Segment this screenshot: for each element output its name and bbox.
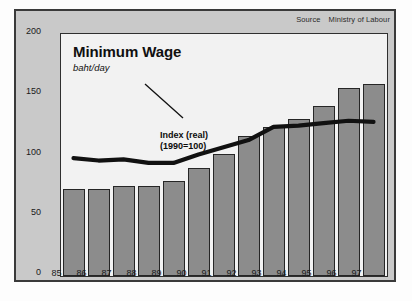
x-tick-92: 92 <box>226 268 236 278</box>
chart-figure: Source Ministry of Labour Minimum Wage b… <box>0 0 412 301</box>
index-line-series <box>61 34 386 275</box>
chart-panel: Source Ministry of Labour Minimum Wage b… <box>14 9 396 282</box>
source-note: Source Ministry of Labour <box>296 12 390 26</box>
y-tick-200: 200 <box>26 26 41 36</box>
x-tick-93: 93 <box>251 268 261 278</box>
annotation-line-1: Index (real) <box>160 130 208 141</box>
y-tick-100: 100 <box>26 147 41 157</box>
x-tick-88: 88 <box>126 268 136 278</box>
annotation-leader-line <box>145 84 183 118</box>
x-tick-91: 91 <box>201 268 211 278</box>
x-tick-90: 90 <box>176 268 186 278</box>
x-tick-97: 97 <box>351 268 361 278</box>
index-line-path <box>74 121 374 163</box>
y-axis: 050100150200 <box>14 0 41 301</box>
plot-area: Minimum Wage baht/day Index (real) (1990… <box>60 33 388 277</box>
y-tick-50: 50 <box>31 207 41 217</box>
annotation-line-2: (1990=100) <box>160 141 208 152</box>
x-tick-96: 96 <box>326 268 336 278</box>
x-tick-85: 85 <box>51 268 61 278</box>
source-value: Ministry of Labour <box>329 15 390 24</box>
x-tick-95: 95 <box>301 268 311 278</box>
x-tick-89: 89 <box>151 268 161 278</box>
source-label: Source <box>296 15 320 24</box>
x-axis: 85868788899091929394959697 <box>44 268 372 284</box>
x-tick-94: 94 <box>276 268 286 278</box>
y-tick-0: 0 <box>36 267 41 277</box>
x-tick-87: 87 <box>101 268 111 278</box>
x-tick-86: 86 <box>76 268 86 278</box>
annotation-index-label: Index (real) (1990=100) <box>160 130 208 152</box>
y-tick-150: 150 <box>26 86 41 96</box>
